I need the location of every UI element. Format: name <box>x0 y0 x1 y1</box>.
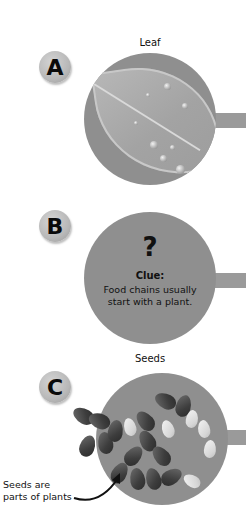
seeds-annotation: Seeds are parts of plants <box>3 479 72 503</box>
leaf-image <box>84 53 216 185</box>
water-drop-icon <box>160 155 167 162</box>
water-drop-icon <box>134 121 138 125</box>
annotation-line-2: parts of plants <box>3 491 72 503</box>
badge-c: C <box>39 371 71 403</box>
water-drop-icon <box>176 165 185 174</box>
connector-a <box>214 113 246 128</box>
curved-arrow-icon <box>70 470 130 506</box>
water-drop-icon <box>170 145 175 150</box>
water-drop-icon <box>146 93 150 97</box>
clue-circle: ? Clue: Food chains usually start with a… <box>84 212 216 344</box>
badge-a: A <box>39 51 71 83</box>
water-drop-icon <box>150 141 158 149</box>
connector-b <box>214 273 246 288</box>
water-drop-icon <box>164 83 171 90</box>
question-mark-icon: ? <box>84 232 216 262</box>
panel-c-title: Seeds <box>110 353 190 364</box>
panel-a-title: Leaf <box>110 37 190 48</box>
water-drop-icon <box>182 103 188 109</box>
badge-b: B <box>39 210 71 242</box>
annotation-line-1: Seeds are <box>3 479 72 491</box>
clue-label: Clue: <box>84 270 216 281</box>
clue-text: Food chains usually start with a plant. <box>92 284 208 308</box>
